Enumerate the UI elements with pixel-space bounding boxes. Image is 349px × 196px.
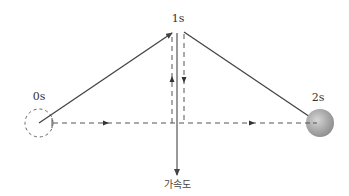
label-acceleration: 가속도 (164, 179, 191, 190)
label-1s: 1s (172, 12, 185, 25)
end-ball (306, 109, 334, 137)
up-arrowhead-icon (170, 76, 175, 82)
right-arrowhead-icon (103, 121, 109, 126)
label-2s: 2s (312, 91, 325, 104)
projectile-diagram: 0s 1s 2s 가속도 (0, 0, 349, 196)
velocity-arrow-0s-1s (39, 33, 172, 123)
vertical-up-component-line (170, 34, 175, 123)
horizontal-component-line (52, 118, 306, 128)
velocity-arrow-1s-2s (184, 32, 316, 121)
down-arrowhead-icon (182, 77, 187, 83)
right-arrowhead-icon (249, 121, 255, 126)
label-0s: 0s (33, 90, 46, 103)
vertical-down-component-line (182, 34, 187, 123)
